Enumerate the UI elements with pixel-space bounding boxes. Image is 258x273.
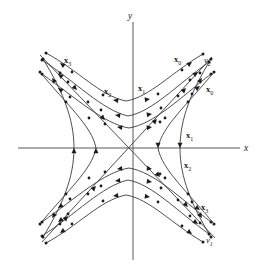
iterate-point [189,79,192,82]
iterate-point [157,201,160,204]
iterate-point [88,117,91,120]
iterate-point [160,107,163,110]
iterate-point [71,71,74,74]
iterate-point [69,96,72,99]
iterate-point [191,93,194,96]
iterate-point [71,223,74,226]
iterate-point [104,123,107,126]
iterate-point [88,177,91,180]
iterate-point [159,121,162,124]
iterate-point [187,101,190,104]
iterate-point [202,241,205,244]
iterate-point [59,72,62,75]
iterate-point [39,223,42,226]
iterate-point [104,171,107,174]
iterate-point [67,213,70,216]
iterate-point [65,193,68,196]
iterate-point [42,58,45,61]
iterate-point [199,72,202,75]
iterate-point [87,101,90,104]
y-axis-label: y [127,11,133,21]
iterate-point [160,187,163,190]
iterate-point [67,81,70,84]
iterate-point [213,223,216,226]
iterate-point [45,242,48,245]
iterate-point [164,117,167,120]
iterate-point [181,69,184,72]
iterate-point [213,71,216,74]
iterate-point [59,223,62,226]
x-axis-label: x [243,143,249,153]
iterate-point [181,225,184,228]
phase-portrait-figure: y x v1 v2 x3 x2 x1 x0 x0 x1 x2 x3 [0,0,258,273]
iterate-point [210,221,213,224]
iterate-point [102,200,105,203]
iterate-point [65,101,68,104]
iterate-point [39,71,42,74]
iterate-point [87,193,90,196]
iterate-point [210,73,213,76]
iterate-point [45,52,48,55]
iterate-point [164,177,167,180]
iterate-point [187,193,190,196]
iterate-point [69,198,72,201]
iterate-point [199,222,202,225]
iterate-point [210,236,213,239]
iterate-point [177,95,180,98]
iterate-point [189,215,192,218]
iterate-point [100,109,103,112]
iterate-point [42,236,45,239]
iterate-point [177,199,180,202]
iterate-point [157,93,160,96]
iterate-point [191,201,194,204]
iterate-point [100,185,103,188]
figure-background [0,0,258,273]
